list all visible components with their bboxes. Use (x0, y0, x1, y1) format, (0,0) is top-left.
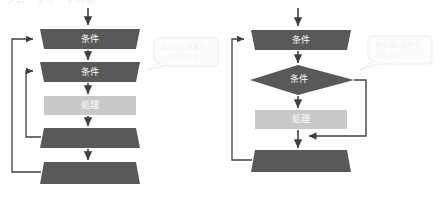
node-decision-label: 条件 (290, 73, 308, 84)
node-loop-start-label: 条件 (292, 34, 310, 45)
callout-nested-loop: 繰り返し処理を 入れ子にする (148, 38, 218, 70)
node-loop-end-inner (40, 128, 140, 148)
diagram-loop-with-branch: 条件 条件 処理 繰り返しの中で 分岐する (220, 0, 440, 198)
node-process-label: 処理 (81, 99, 99, 110)
node-process-label: 処理 (292, 113, 310, 124)
node-loop-end-outer (40, 162, 140, 184)
node-loop-start-inner-label: 条件 (81, 66, 99, 77)
connector-inner-loopback (26, 71, 41, 137)
flowchart-figure: フローチャートの例 条件 条件 (0, 0, 440, 198)
callout-line-1: 繰り返しの中で (376, 41, 420, 49)
callout-line-2: 分岐する (376, 51, 401, 59)
diagram-nested-loop: 条件 条件 処理 繰り返し処理を 入れ子にする (0, 0, 220, 198)
connector-loopback (232, 39, 252, 160)
node-loop-end (251, 150, 351, 172)
node-loop-start-outer-label: 条件 (81, 33, 99, 44)
callout-loop-branch: 繰り返しの中で 分岐する (360, 36, 432, 70)
callout-line-2: 入れ子にする (162, 54, 200, 61)
callout-line-1: 繰り返し処理を (162, 43, 206, 51)
